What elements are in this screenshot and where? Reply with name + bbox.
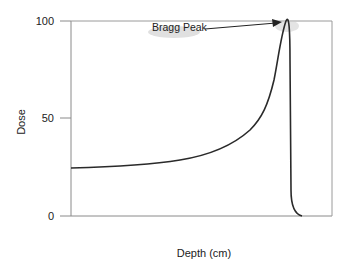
bragg-peak-chart: 100 50 0 Dose Depth (cm) Bragg Peak xyxy=(0,0,349,270)
x-axis-label: Depth (cm) xyxy=(177,247,231,259)
annotation-label: Bragg Peak xyxy=(152,21,208,33)
annotation-arrow-line xyxy=(205,23,276,29)
y-axis-label: Dose xyxy=(15,109,27,135)
y-tick-label-0: 0 xyxy=(48,210,54,222)
y-ticks: 100 50 0 xyxy=(36,15,71,222)
dose-curve xyxy=(71,19,302,216)
y-tick-label-100: 100 xyxy=(36,15,54,27)
y-tick-label-50: 50 xyxy=(42,112,54,124)
plot-frame xyxy=(71,21,332,216)
